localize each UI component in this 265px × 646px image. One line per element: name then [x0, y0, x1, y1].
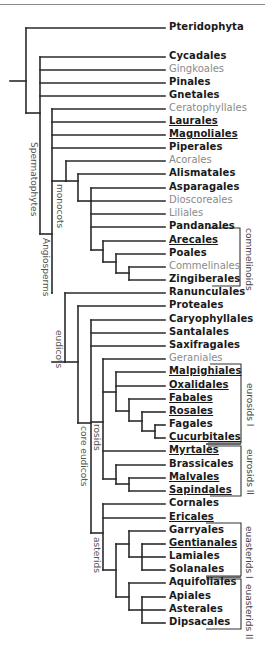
- taxon-piperales: Piperales: [169, 141, 222, 153]
- taxon-asparagales: Asparagales: [169, 181, 239, 193]
- taxon-gnetales: Gnetales: [169, 89, 220, 101]
- taxon-ranunculales: Ranunculales: [169, 286, 245, 298]
- taxon-pteridophyta: Pteridophyta: [169, 21, 244, 33]
- taxon-apiales: Apiales: [169, 590, 211, 602]
- taxon-ericales: Ericales: [169, 511, 214, 523]
- taxon-geraniales: Geraniales: [169, 352, 223, 364]
- taxon-lamiales: Lamiales: [169, 550, 220, 562]
- taxon-gentianales: Gentianales: [169, 537, 237, 549]
- taxon-aquifoliales: Aquifoliales: [169, 576, 237, 588]
- taxon-malpighiales: Malpighiales: [169, 365, 242, 377]
- taxon-saxifragales: Saxifragales: [169, 339, 240, 351]
- taxon-pandanales: Pandanales: [169, 220, 235, 232]
- clade-label-rosids: rosids: [92, 424, 102, 451]
- taxon-laurales: Laurales: [169, 115, 218, 127]
- clade-label-eudicots: eudicots: [54, 330, 64, 368]
- taxon-zingiberales: Zingiberales: [169, 273, 240, 285]
- taxon-brassicales: Brassicales: [169, 458, 234, 470]
- bracket-label-eurosids-2: eurosids II: [245, 449, 255, 495]
- taxon-liliales: Liliales: [169, 207, 203, 219]
- bracket-label-euasterids-2: euasterids II: [244, 584, 254, 639]
- taxon-ceratophyllales: Ceratophyllales: [169, 102, 247, 114]
- taxon-cycadales: Cycadales: [169, 50, 227, 62]
- clade-label-spermatophytes: Spermatophytes: [29, 142, 39, 216]
- taxon-arecales: Arecales: [169, 234, 218, 246]
- taxon-alismatales: Alismatales: [169, 167, 236, 179]
- taxon-asterales: Asterales: [169, 603, 223, 615]
- taxon-pinales: Pinales: [169, 76, 211, 88]
- taxon-cucurbitales: Cucurbitales: [169, 431, 241, 443]
- taxon-malvales: Malvales: [169, 471, 219, 483]
- taxon-myrtales: Myrtales: [169, 444, 219, 456]
- taxon-santalales: Santalales: [169, 326, 229, 338]
- taxon-fagales: Fagales: [169, 418, 213, 430]
- taxon-sapindales: Sapindales: [169, 484, 232, 496]
- clade-label-core-eudicots: core eudicots: [79, 426, 89, 486]
- taxon-dipsacales: Dipsacales: [169, 616, 230, 628]
- bracket-label-eurosids-1: eurosids I: [245, 383, 255, 426]
- taxon-magnoliales: Magnoliales: [169, 128, 238, 140]
- taxon-oxalidales: Oxalidales: [169, 379, 229, 391]
- taxon-garryales: Garryales: [169, 524, 224, 536]
- taxon-fabales: Fabales: [169, 392, 213, 404]
- taxon-proteales: Proteales: [169, 299, 224, 311]
- bracket-label-euasterids-1: euasterids I: [244, 526, 254, 579]
- taxon-cornales: Cornales: [169, 497, 219, 509]
- taxon-poales: Poales: [169, 247, 207, 259]
- clade-label-asterids: asterids: [92, 537, 102, 573]
- taxon-gingkoales: Gingkoales: [169, 63, 224, 75]
- taxon-rosales: Rosales: [169, 405, 213, 417]
- clade-label-monocots: monocots: [55, 184, 65, 228]
- clade-label-angiosperms: Angiosperms: [41, 238, 51, 297]
- taxon-caryophyllales: Caryophyllales: [169, 313, 253, 325]
- bracket-label-commelinoids: commelinoids: [244, 228, 254, 291]
- taxon-commelinales: Commelinales: [169, 260, 240, 272]
- taxon-solanales: Solanales: [169, 563, 224, 575]
- taxon-dioscoreales: Dioscoreales: [169, 194, 233, 206]
- taxon-acorales: Acorales: [169, 154, 212, 166]
